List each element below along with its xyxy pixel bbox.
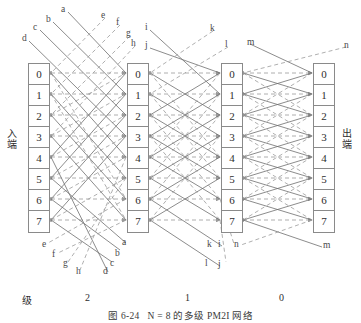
node-cell: 5 <box>128 169 148 190</box>
node-cell: 1 <box>314 85 334 106</box>
input-column: 0 1 2 3 4 5 6 7 <box>28 63 50 233</box>
wire-label-g-bottom: g <box>63 258 68 268</box>
node-cell: 1 <box>222 85 242 106</box>
node-cell: 0 <box>128 64 148 85</box>
node-cell: 7 <box>222 211 242 232</box>
wire-label-i-top: i <box>145 22 148 32</box>
node-cell: 4 <box>29 148 49 169</box>
node-cell: 0 <box>222 64 242 85</box>
stage-label-1: 1 <box>185 292 190 303</box>
node-cell: 5 <box>29 169 49 190</box>
stage-label-0: 0 <box>279 292 284 303</box>
wire-label-d-bottom: d <box>103 266 108 276</box>
wire-label-c-bottom: c <box>110 258 114 268</box>
node-cell: 5 <box>314 169 334 190</box>
input-end-label: 入端 <box>6 128 18 150</box>
stage1-output-column: 0 1 2 3 4 5 6 7 <box>221 63 243 233</box>
wire-label-f-bottom: f <box>52 249 55 259</box>
node-cell: 3 <box>29 127 49 148</box>
figure-caption-text: N = 8 的多级 PM2I 网络 <box>148 311 254 321</box>
node-cell: 7 <box>29 211 49 232</box>
node-cell: 3 <box>128 127 148 148</box>
node-cell: 2 <box>29 106 49 127</box>
figure-caption: 图 6-24N = 8 的多级 PM2I 网络 <box>0 308 361 322</box>
node-cell: 2 <box>314 106 334 127</box>
stage-label-2: 2 <box>85 292 90 303</box>
node-cell: 3 <box>314 127 334 148</box>
wire-label-b-top: b <box>46 14 51 24</box>
pm2i-network-figure: 0 1 2 3 4 5 6 7 0 1 2 3 4 5 6 7 0 1 2 3 … <box>0 0 361 323</box>
wire-label-n-bottom: n <box>234 239 239 249</box>
node-cell: 6 <box>128 190 148 211</box>
node-cell: 7 <box>128 211 148 232</box>
node-cell: 6 <box>222 190 242 211</box>
wire-label-a-top: a <box>61 4 65 14</box>
wire-label-g-top: g <box>126 28 131 38</box>
wire-label-l-bottom: l <box>205 258 208 268</box>
wire-label-a-bottom: a <box>122 237 126 247</box>
wire-label-e-bottom: e <box>42 239 46 249</box>
wire-label-j-bottom: j <box>218 259 221 269</box>
node-cell: 4 <box>128 148 148 169</box>
wire-label-k-top: k <box>210 23 215 33</box>
node-cell: 5 <box>222 169 242 190</box>
stage0-output-column: 0 1 2 3 4 5 6 7 <box>313 63 335 233</box>
wire-label-m-bottom: m <box>323 240 330 250</box>
stage2-output-column: 0 1 2 3 4 5 6 7 <box>127 63 149 233</box>
wire-label-l-top: l <box>225 39 228 49</box>
wire-label-m-top: m <box>247 37 254 47</box>
wire-label-h-top: h <box>131 38 136 48</box>
node-cell: 6 <box>314 190 334 211</box>
node-cell: 4 <box>222 148 242 169</box>
node-cell: 4 <box>314 148 334 169</box>
output-end-label: 出端 <box>341 128 353 150</box>
wire-label-c-top: c <box>33 22 37 32</box>
wire-label-i-bottom: i <box>218 239 221 249</box>
node-cell: 0 <box>29 64 49 85</box>
wire-label-h-bottom: h <box>76 266 81 276</box>
stage-axis-row: 级 2 1 0 <box>0 292 361 306</box>
wire-label-d-top: d <box>22 33 27 43</box>
wire-label-f-top: f <box>116 17 119 27</box>
wire-label-j-top: j <box>145 40 148 50</box>
node-cell: 0 <box>314 64 334 85</box>
network-wiring-diagram <box>0 0 361 323</box>
wire-label-k-bottom: k <box>207 239 212 249</box>
node-cell: 2 <box>222 106 242 127</box>
node-cell: 3 <box>222 127 242 148</box>
stage-axis-label: 级 <box>22 292 32 307</box>
node-cell: 1 <box>128 85 148 106</box>
wire-label-e-top: e <box>101 10 105 20</box>
node-cell: 1 <box>29 85 49 106</box>
node-cell: 7 <box>314 211 334 232</box>
wire-label-n-top: n <box>344 40 349 50</box>
node-cell: 6 <box>29 190 49 211</box>
wire-label-b-bottom: b <box>115 248 120 258</box>
figure-caption-number: 图 6-24 <box>108 311 140 321</box>
node-cell: 2 <box>128 106 148 127</box>
